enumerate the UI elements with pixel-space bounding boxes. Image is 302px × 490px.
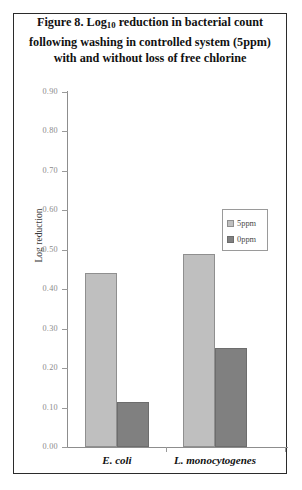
bar-0ppm-lmonocytogenes: [215, 348, 247, 447]
y-axis-tick-label: 0.30: [18, 324, 58, 333]
figure-title: Figure 8. Log10 reduction in bacterial c…: [14, 14, 286, 67]
y-axis-tick-label: 0.10: [18, 403, 58, 412]
y-axis-tick-label: 0.20: [18, 363, 58, 372]
legend-item-5ppm: 5ppm: [227, 215, 267, 231]
y-axis-tick-label: 0.60: [18, 205, 58, 214]
legend-label-5ppm: 5ppm: [237, 219, 256, 228]
legend-swatch-0ppm: [227, 236, 234, 243]
legend-item-0ppm: 0ppm: [227, 231, 267, 247]
x-axis-label-lmonocytogenes: L. monocytogenes: [155, 454, 275, 466]
x-axis-end-tick: [285, 447, 286, 452]
y-axis-tick-label: 0.50: [18, 245, 58, 254]
bar-0ppm-ecoli: [117, 402, 149, 447]
chart-legend: 5ppm0ppm: [222, 209, 268, 251]
y-axis-tick-label: 0.70: [18, 166, 58, 175]
x-axis-separator: [166, 447, 167, 452]
figure-title-line-2: following washing in controlled system (…: [14, 34, 286, 51]
plot-area: [68, 92, 264, 447]
y-axis-title: Log reduction: [33, 176, 44, 296]
figure-title-line-3: with and without loss of free chlorine: [14, 50, 286, 67]
y-axis-tick-label: 0.80: [18, 126, 58, 135]
y-axis-tick-label: 0.40: [18, 284, 58, 293]
y-axis-tick-label: 0.00: [18, 442, 58, 451]
y-axis-tick-label: 0.90: [18, 87, 58, 96]
bar-5ppm-ecoli: [85, 273, 117, 447]
y-axis-tick: [62, 447, 68, 448]
figure-title-line-1: Figure 8. Log10 reduction in bacterial c…: [14, 14, 286, 34]
legend-swatch-5ppm: [227, 220, 234, 227]
figure-page: Figure 8. Log10 reduction in bacterial c…: [0, 0, 302, 490]
legend-label-0ppm: 0ppm: [237, 235, 256, 244]
bar-5ppm-lmonocytogenes: [183, 254, 215, 447]
x-axis-line: [67, 447, 288, 448]
